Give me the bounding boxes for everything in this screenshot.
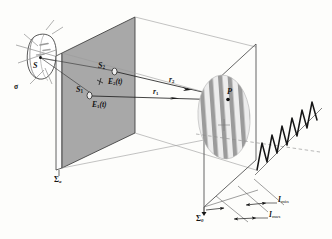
label-slit-2: S2	[98, 62, 105, 70]
imin-span-arrow	[246, 203, 266, 205]
label-aperture-screen: Σa	[54, 176, 61, 185]
interference-diagram: S σ S2 S1 E2(t) E1(t) r2 r1 P Σa Σ0 Imin…	[0, 0, 332, 239]
source-ray-whisker	[52, 27, 63, 34]
label-slit-1: S1	[76, 86, 83, 94]
point-p-marker	[226, 98, 230, 102]
label-field-2: E2(t)	[108, 78, 123, 87]
ruler-tick-b	[238, 186, 268, 212]
slit-2-aperture	[112, 68, 117, 75]
imax-span-arrow	[234, 218, 256, 219]
observation-point-P	[226, 98, 230, 102]
label-intensity-max: Imax	[269, 211, 281, 219]
source-ray-whisker	[46, 20, 54, 30]
screen-width-arrow	[206, 208, 224, 210]
guide-upper-edge	[135, 17, 256, 47]
aperture-plate-face	[62, 17, 135, 168]
ruler-tick-a	[216, 196, 248, 222]
source-hatch	[43, 50, 50, 51]
intensity-baseline	[255, 108, 322, 175]
aperture-screen	[56, 17, 135, 170]
irradiance-curve	[257, 102, 317, 170]
label-ray-r1: r1	[153, 88, 158, 97]
label-source-extent: σ	[14, 83, 18, 91]
label-source-point: S	[33, 62, 38, 70]
label-intensity-min: Imin	[278, 196, 289, 204]
slit-1-aperture	[87, 92, 92, 99]
label-field-1: E1(t)	[92, 101, 107, 110]
label-observation-screen: Σ0	[196, 215, 203, 224]
label-observation-point: P	[227, 88, 232, 96]
label-ray-r2: r2	[169, 76, 174, 85]
